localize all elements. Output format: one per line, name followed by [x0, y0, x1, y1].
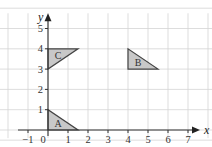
coordinate-grid: ABC−10123456712345xy — [0, 0, 212, 147]
y-tick-label: 4 — [38, 43, 44, 54]
x-tick-label: 4 — [125, 134, 131, 145]
y-axis-label: y — [37, 10, 44, 24]
y-tick-label: 5 — [38, 23, 43, 34]
x-tick-label: 6 — [165, 134, 170, 145]
x-axis-arrow-icon — [192, 127, 200, 134]
x-tick-label: 0 — [40, 134, 45, 145]
x-tick-label: 3 — [105, 134, 110, 145]
x-tick-label: 2 — [85, 134, 90, 145]
triangle-c — [48, 49, 78, 69]
x-tick-label: 1 — [65, 134, 70, 145]
triangle-b — [128, 49, 158, 69]
x-tick-label: 5 — [145, 134, 150, 145]
x-tick-label: −1 — [22, 134, 33, 145]
y-tick-label: 2 — [38, 84, 43, 95]
x-tick-label: 7 — [185, 134, 190, 145]
triangle-label-b: B — [135, 57, 142, 68]
triangle-a — [48, 110, 78, 130]
axes-layer — [18, 13, 200, 136]
grid-lines — [0, 8, 212, 140]
y-tick-label: 3 — [38, 64, 43, 75]
triangle-label-c: C — [55, 50, 62, 61]
y-axis-arrow-icon — [45, 13, 52, 21]
y-tick-label: 1 — [38, 104, 43, 115]
x-axis-label: x — [203, 123, 210, 137]
triangle-label-a: A — [54, 118, 62, 129]
